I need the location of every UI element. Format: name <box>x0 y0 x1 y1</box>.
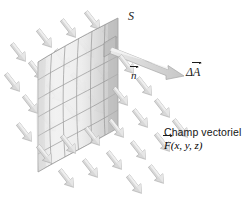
area-symbol: A <box>193 65 200 79</box>
vector-arrow-accent <box>192 62 201 63</box>
vector-arrow-accent <box>130 66 138 67</box>
delta-symbol: Δ <box>186 65 193 79</box>
vector-field-flux-figure: S n ΔA Champ vectoriel F(x, y, z) <box>0 0 246 204</box>
diagram-canvas <box>0 0 246 204</box>
normal-symbol: n <box>131 69 137 81</box>
caption-text: Champ vectoriel <box>164 126 241 138</box>
field-caption: Champ vectoriel F(x, y, z) <box>164 126 241 151</box>
caption-formula: F(x, y, z) <box>164 139 241 151</box>
vector-arrow-accent <box>163 135 172 136</box>
surface-label-S: S <box>128 10 134 22</box>
field-arguments: (x, y, z) <box>171 139 203 151</box>
normal-vector-label: n <box>131 70 137 81</box>
field-symbol: F <box>164 139 171 151</box>
normal-vector-arrow <box>110 48 184 80</box>
area-element-label: ΔA <box>186 66 200 78</box>
